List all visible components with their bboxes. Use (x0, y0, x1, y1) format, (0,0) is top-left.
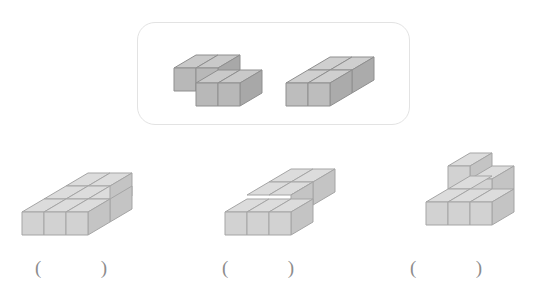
option-2-paren-close: ) (288, 258, 294, 277)
exercise-page: ( ) ( ) (0, 0, 551, 304)
option-3-paren-close: ) (476, 258, 482, 277)
option-1-answer-row: ( ) (35, 256, 107, 278)
given-piece-1 (166, 35, 296, 117)
option-2-paren-open: ( (222, 258, 228, 277)
given-pieces-box (137, 22, 410, 125)
given-piece-2 (286, 41, 406, 117)
option-1-paren-close: ) (101, 258, 107, 277)
option-3-shape (412, 148, 532, 256)
option-3-paren-open: ( (410, 258, 416, 277)
option-1-shape (22, 160, 152, 255)
option-1-paren-open: ( (35, 258, 41, 277)
option-3-answer-row: ( ) (410, 256, 482, 278)
option-2-answer-row: ( ) (222, 256, 294, 278)
option-2-shape (225, 160, 355, 255)
